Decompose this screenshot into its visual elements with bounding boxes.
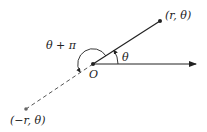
polar-coordinates-diagram: (r, θ) (−r, θ) O θ θ + π	[0, 0, 207, 132]
point-positive	[158, 19, 162, 23]
label-point-positive: (r, θ)	[165, 9, 191, 22]
label-point-negative: (−r, θ)	[10, 114, 45, 127]
origin-point	[91, 62, 95, 66]
point-negative	[24, 107, 28, 111]
angle-theta-arc	[114, 51, 118, 65]
ray-negative-dashed	[26, 64, 93, 109]
label-origin: O	[89, 68, 98, 81]
label-angle-theta-plus-pi: θ + π	[46, 39, 76, 52]
label-angle-theta: θ	[122, 51, 129, 64]
